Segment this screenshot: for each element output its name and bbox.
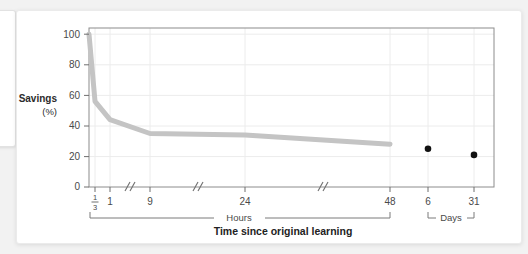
days-bracket-label: Days (440, 212, 462, 223)
figure-card: 100 80 60 40 20 0 Savings (%) (16, 10, 522, 244)
y-axis-ticks (84, 34, 89, 187)
x-tick-label-24h: 24 (239, 196, 251, 207)
x-axis-ticks (95, 187, 474, 192)
savings-curve-line (89, 34, 390, 144)
x-tick-label-6d: 6 (425, 196, 431, 207)
background-card-partial (0, 10, 16, 147)
y-tick-label-0: 0 (74, 181, 80, 192)
y-tick-label-20: 20 (69, 151, 81, 162)
x-tick-label-48h: 48 (384, 196, 396, 207)
x-gridlines (95, 28, 474, 187)
y-axis-title: Savings (19, 93, 58, 104)
fraction-numerator: 1 (93, 193, 97, 202)
x-tick-label-31d: 31 (468, 196, 480, 207)
y-tick-label-80: 80 (69, 59, 81, 70)
hours-bracket-label: Hours (226, 212, 252, 223)
y-tick-label-40: 40 (69, 120, 81, 131)
y-tick-label-60: 60 (69, 90, 81, 101)
x-tick-label-1h: 1 (107, 196, 113, 207)
x-tick-label-9h: 9 (147, 196, 153, 207)
y-axis-tick-labels: 100 80 60 40 20 0 (63, 29, 80, 193)
forgetting-curve-chart: 100 80 60 40 20 0 Savings (%) (17, 11, 521, 243)
y-tick-label-100: 100 (63, 29, 80, 40)
fraction-denominator: 3 (93, 203, 97, 212)
x-tick-label-one-third: 1 3 (92, 193, 99, 212)
data-point-6-days (425, 146, 432, 153)
x-axis-tick-labels: 1 3 1 9 24 48 6 31 (92, 193, 480, 212)
chart-title: Time since original learning (214, 225, 353, 237)
y-axis-unit: (%) (42, 106, 57, 117)
data-point-31-days (471, 152, 478, 159)
